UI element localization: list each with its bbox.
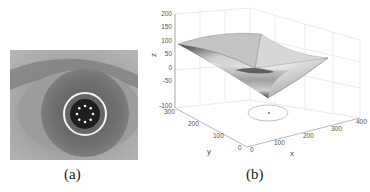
svg-text:50: 50 bbox=[165, 50, 173, 57]
svg-text:0: 0 bbox=[168, 64, 172, 71]
eye-image bbox=[10, 50, 138, 160]
svg-text:100: 100 bbox=[213, 132, 224, 139]
floor-center-marker bbox=[268, 112, 270, 114]
floor-contour bbox=[248, 105, 288, 121]
svg-text:100: 100 bbox=[161, 37, 172, 44]
caption-a: (a) bbox=[64, 166, 81, 183]
svg-text:0: 0 bbox=[250, 146, 254, 153]
svg-text:200: 200 bbox=[303, 132, 314, 139]
svg-text:300: 300 bbox=[331, 125, 342, 132]
svg-text:0: 0 bbox=[238, 144, 242, 151]
svg-text:400: 400 bbox=[356, 118, 367, 125]
y-axis-label: y bbox=[207, 147, 211, 156]
svg-text:200: 200 bbox=[161, 10, 172, 17]
surface bbox=[178, 33, 328, 98]
svg-text:-50: -50 bbox=[163, 77, 173, 84]
caption-b: (b) bbox=[246, 166, 264, 183]
eye-photo bbox=[10, 50, 138, 160]
x-axis-label: x bbox=[290, 149, 294, 158]
svg-text:100: 100 bbox=[274, 139, 285, 146]
y-axis-ticks: 300 200 100 0 bbox=[164, 108, 242, 151]
svg-text:300: 300 bbox=[164, 108, 175, 115]
svg-text:200: 200 bbox=[188, 120, 199, 127]
z-axis-label: z bbox=[150, 53, 158, 57]
svg-text:150: 150 bbox=[161, 23, 172, 30]
z-axis-ticks: 200 150 100 50 0 -50 -100 bbox=[159, 10, 172, 109]
surface-plot: 200 150 100 50 0 -50 -100 z 300 200 100 … bbox=[150, 0, 370, 162]
x-axis-ticks: 0 100 200 300 400 bbox=[250, 118, 367, 153]
